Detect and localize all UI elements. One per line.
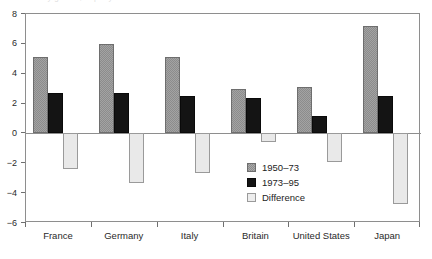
x-axis-tick — [354, 222, 355, 227]
bar-france-series-0 — [33, 57, 48, 133]
y-axis-label: 4 — [0, 73, 17, 74]
x-axis-tick — [419, 222, 420, 227]
bar-italy-series-0 — [165, 57, 180, 133]
legend-label: 1950–73 — [262, 162, 299, 173]
y-axis-label: 2 — [0, 103, 17, 104]
zero-line — [26, 133, 421, 134]
bar-germany-series-1 — [114, 93, 129, 133]
bar-japan-series-2 — [393, 133, 408, 203]
x-axis-label-france: France — [25, 230, 91, 241]
y-axis-label: 6 — [0, 43, 17, 44]
x-axis-label-italy: Italy — [157, 230, 223, 241]
bar-italy-series-2 — [195, 133, 210, 173]
bar-britain-series-2 — [261, 133, 276, 141]
chart-legend: 1950–731973–95Difference — [247, 160, 305, 205]
legend-item-1: 1973–95 — [247, 175, 305, 189]
x-axis-tick — [157, 222, 158, 227]
y-axis-label: 8 — [0, 14, 17, 15]
plot-area — [25, 13, 420, 222]
legend-label: Difference — [262, 192, 305, 203]
bar-japan-series-1 — [378, 96, 393, 133]
bar-britain-series-0 — [231, 89, 246, 133]
bar-italy-series-1 — [180, 96, 195, 133]
x-axis-label-britain: Britain — [223, 230, 289, 241]
x-axis-tick — [25, 222, 26, 227]
y-axis-label: −4 — [0, 193, 17, 194]
bar-britain-series-1 — [246, 98, 261, 134]
x-axis-label-japan: Japan — [354, 230, 420, 241]
x-axis-label-united-states: United States — [288, 230, 354, 241]
x-axis-tick — [91, 222, 92, 227]
bar-united-states-series-2 — [327, 133, 342, 161]
bar-united-states-series-0 — [297, 87, 312, 133]
legend-label: 1973–95 — [262, 177, 299, 188]
bar-germany-series-0 — [99, 44, 114, 134]
x-axis-tick — [223, 222, 224, 227]
chart-figure: Productivity growth, % per year 86420−2−… — [0, 0, 432, 259]
bar-france-series-1 — [48, 93, 63, 133]
legend-swatch-icon — [247, 193, 256, 202]
bar-japan-series-0 — [363, 26, 378, 133]
y-axis-label: −6 — [0, 223, 17, 224]
x-axis-label-germany: Germany — [91, 230, 157, 241]
legend-item-2: Difference — [247, 190, 305, 204]
x-axis-tick — [288, 222, 289, 227]
bar-france-series-2 — [63, 133, 78, 169]
bar-united-states-series-1 — [312, 116, 327, 134]
y-axis-label: −2 — [0, 163, 17, 164]
y-axis-label: 0 — [0, 133, 17, 134]
bar-germany-series-2 — [129, 133, 144, 182]
legend-swatch-icon — [247, 178, 256, 187]
legend-swatch-icon — [247, 163, 256, 172]
legend-item-0: 1950–73 — [247, 160, 305, 174]
